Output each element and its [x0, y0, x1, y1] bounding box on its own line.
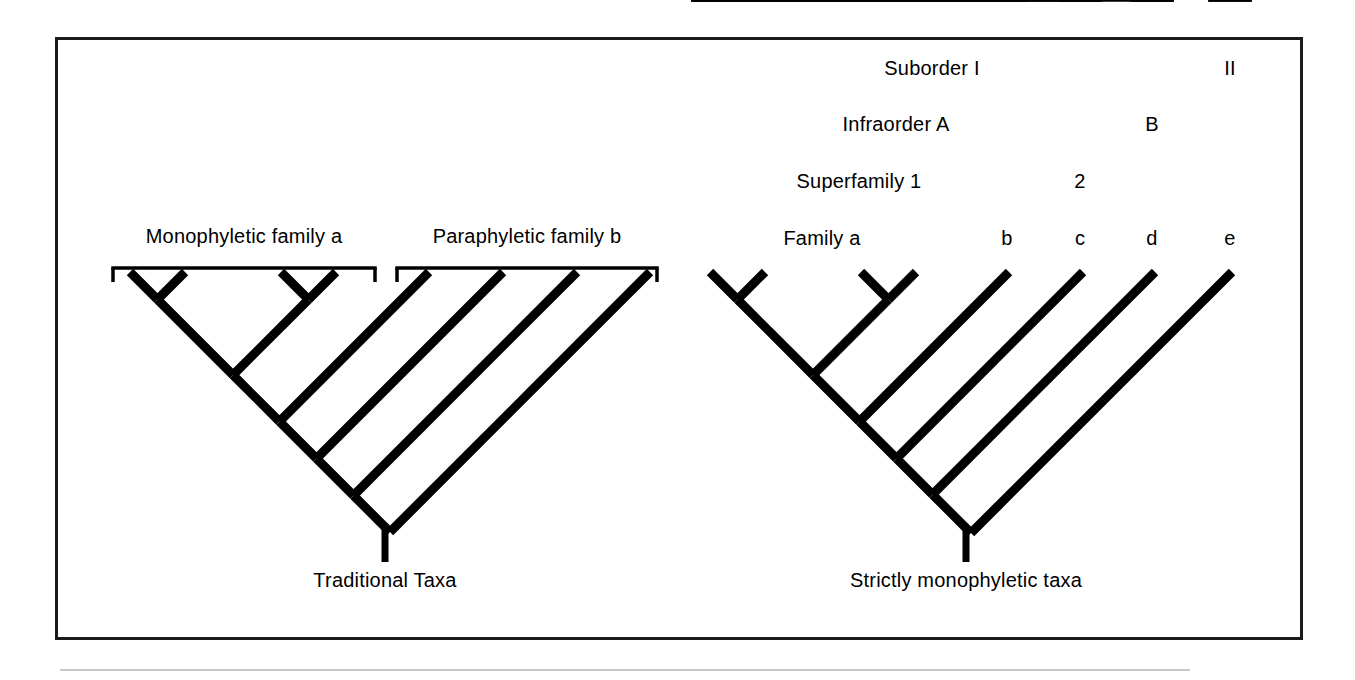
bracket-label-paraphyletic-family-b: Paraphyletic family b	[433, 226, 622, 246]
bracket-label-family-a: Family a	[783, 228, 860, 248]
bracket-label-family-e: e	[1224, 228, 1235, 248]
caption-traditional-taxa: Traditional Taxa	[313, 570, 456, 590]
figure-frame	[55, 37, 1303, 640]
caption-strictly-monophyletic-taxa: Strictly monophyletic taxa	[850, 570, 1082, 590]
bracket-label-infraorder-a: Infraorder A	[843, 114, 950, 134]
bracket-label-monophyletic-family-a: Monophyletic family a	[146, 226, 343, 246]
bracket-label-suborder-i: Suborder I	[884, 58, 979, 78]
bracket-label-family-d: d	[1146, 228, 1157, 248]
bottom-divider-rule	[60, 669, 1190, 671]
bracket-label-infraorder-b: B	[1145, 114, 1159, 134]
bracket-label-superfamily-2: 2	[1074, 171, 1085, 191]
bracket-label-suborder-ii: II	[1224, 58, 1236, 78]
bracket-label-family-b: b	[1001, 228, 1012, 248]
bracket-label-superfamily-1: Superfamily 1	[797, 171, 922, 191]
figure-canvas: Monophyletic family a Paraphyletic famil…	[0, 0, 1355, 680]
bracket-label-family-c: c	[1075, 228, 1085, 248]
